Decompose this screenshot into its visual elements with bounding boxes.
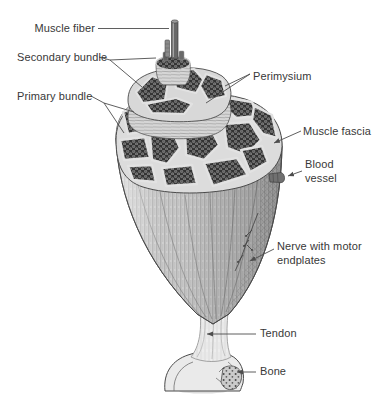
label-tendon: Tendon <box>260 326 297 340</box>
muscle-anatomy-figure: Muscle fiber Secondary bundle Primary bu… <box>0 0 378 403</box>
muscle-fiber-shape <box>165 20 178 59</box>
label-blood-vessel: Blood vessel <box>305 157 355 185</box>
leader-blood-vessel <box>288 171 302 176</box>
label-muscle-fiber: Muscle fiber <box>35 21 96 35</box>
label-secondary-bundle: Secondary bundle <box>17 50 107 64</box>
label-perimysium: Perimysium <box>253 69 311 83</box>
label-nerve-with-motor-endplates: Nerve with motor endplates <box>277 239 369 267</box>
label-bone: Bone <box>260 364 286 378</box>
blood-vessel-shape <box>269 173 285 183</box>
label-muscle-fascia: Muscle fascia <box>303 124 371 138</box>
label-primary-bundle: Primary bundle <box>17 89 92 103</box>
